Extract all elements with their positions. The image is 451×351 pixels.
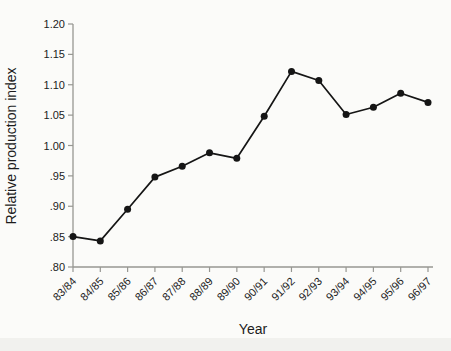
y-tick-label: .80: [50, 261, 65, 273]
x-tick-label: 85/86: [105, 275, 133, 303]
data-point: [370, 104, 377, 111]
y-tick-label: 1.15: [44, 48, 65, 60]
x-tick-label: 83/84: [50, 275, 78, 303]
data-point: [151, 174, 158, 181]
x-tick-label: 88/89: [187, 275, 215, 303]
x-tick-label: 87/88: [160, 275, 188, 303]
y-tick-label: .85: [50, 231, 65, 243]
y-tick-label: 1.10: [44, 79, 65, 91]
data-point: [70, 233, 77, 240]
y-tick-label: .90: [50, 200, 65, 212]
data-point: [233, 155, 240, 162]
x-tick-label: 94/95: [351, 275, 379, 303]
x-tick-label: 91/92: [269, 275, 297, 303]
y-tick-label: .95: [50, 170, 65, 182]
data-point: [343, 111, 350, 118]
x-tick-label: 89/90: [214, 275, 242, 303]
x-tick-label: 96/97: [405, 275, 433, 303]
x-tick-label: 93/94: [324, 275, 352, 303]
x-tick-label: 90/91: [242, 275, 270, 303]
y-tick-label: 1.05: [44, 109, 65, 121]
y-tick-label: 1.00: [44, 140, 65, 152]
x-tick-label: 95/96: [378, 275, 406, 303]
x-axis-title: Year: [239, 321, 268, 337]
y-axis-title: Relative production index: [3, 67, 19, 224]
data-point: [97, 237, 104, 244]
y-tick-label: 1.20: [44, 18, 65, 30]
data-point: [179, 163, 186, 170]
production-index-line-chart: 1.201.151.101.051.00.95.90.85.8083/8484/…: [0, 0, 451, 351]
data-point: [315, 77, 322, 84]
data-point: [261, 113, 268, 120]
chart-figure: 1.201.151.101.051.00.95.90.85.8083/8484/…: [0, 0, 451, 351]
data-point: [206, 149, 213, 156]
data-point: [124, 206, 131, 213]
data-point: [425, 99, 432, 106]
x-tick-label: 86/87: [132, 275, 160, 303]
data-point: [397, 90, 404, 97]
x-tick-label: 92/93: [296, 275, 324, 303]
plot-area: 1.201.151.101.051.00.95.90.85.8083/8484/…: [44, 18, 434, 303]
x-tick-label: 84/85: [78, 275, 106, 303]
data-point: [288, 68, 295, 75]
data-line: [73, 71, 428, 241]
